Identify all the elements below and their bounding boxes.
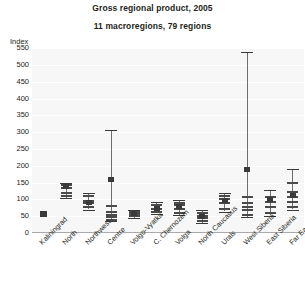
y-axis-tick-label: 400 (0, 95, 29, 103)
y-axis-tick-label: 550 (0, 44, 29, 52)
chart-title: Gross regional product, 2005 (0, 3, 305, 14)
chart-title-block: Gross regional product, 2005 11 macroreg… (0, 3, 305, 32)
chart-subtitle: 11 macroregions, 79 regions (0, 21, 305, 32)
y-axis-tick-labels: 050100150200250300350400450500550 (0, 48, 305, 233)
x-axis-tick-labels: KaliningradNorthNorthwestCentreVolgo-Vya… (0, 233, 305, 295)
y-axis-tick-label: 300 (0, 128, 29, 136)
y-axis-tick-label: 250 (0, 145, 29, 153)
y-axis-tick-label: 500 (0, 61, 29, 69)
y-axis-tick-label: 50 (0, 212, 29, 220)
y-axis-tick-label: 150 (0, 179, 29, 187)
y-axis-tick-label: 200 (0, 162, 29, 170)
y-axis-tick-label: 450 (0, 78, 29, 86)
y-axis-tick-label: 350 (0, 111, 29, 119)
y-axis-tick-label: 100 (0, 195, 29, 203)
chart-container: Gross regional product, 2005 11 macroreg… (0, 0, 305, 295)
